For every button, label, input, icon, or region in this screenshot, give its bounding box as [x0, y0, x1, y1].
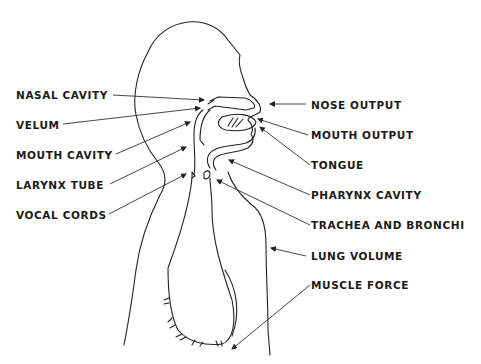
muscle-force-arrow [232, 285, 310, 349]
nasal-cavity-arrow [113, 95, 204, 100]
label-mouth-cavity: MOUTH CAVITY [16, 149, 113, 161]
mouth-cavity-arrow [116, 122, 190, 154]
label-vocal-cords: VOCAL CORDS [16, 209, 107, 221]
vocal-cord-right [204, 171, 210, 179]
oral-cavity-wall [194, 110, 210, 175]
vocal-cords-arrow [109, 174, 186, 214]
tongue-arrow [260, 127, 310, 165]
mouth-output-arrow [258, 119, 308, 135]
lung-volume-arrow [271, 248, 306, 256]
palate-outline [208, 97, 255, 110]
velum-arrow [63, 108, 200, 124]
tongue-lines [228, 118, 243, 127]
label-lung-volume: LUNG VOLUME [311, 250, 403, 262]
pharynx-cavity-arrow [229, 160, 310, 195]
trachea-arrow [217, 180, 310, 225]
label-nose-output: NOSE OUTPUT [311, 99, 402, 111]
larynx-tube-arrow [110, 147, 186, 184]
bronchi-line [225, 270, 237, 336]
label-pharynx-cavity: PHARYNX CAVITY [311, 189, 422, 201]
head-body-outline [124, 22, 261, 345]
speech-anatomy-diagram: NASAL CAVITY VELUM MOUTH CAVITY LARYNX T… [0, 0, 481, 364]
label-muscle-force: MUSCLE FORCE [311, 279, 409, 291]
label-larynx-tube: LARYNX TUBE [16, 179, 104, 191]
label-nasal-cavity: NASAL CAVITY [16, 89, 108, 101]
label-tongue: TONGUE [311, 159, 364, 171]
label-trachea-and-bronchi: TRACHEA AND BRONCHI [311, 219, 465, 231]
lung-outline [168, 178, 234, 344]
label-mouth-output: MOUTH OUTPUT [311, 129, 414, 141]
muscle-ticks [164, 298, 222, 346]
label-velum: VELUM [16, 119, 60, 131]
